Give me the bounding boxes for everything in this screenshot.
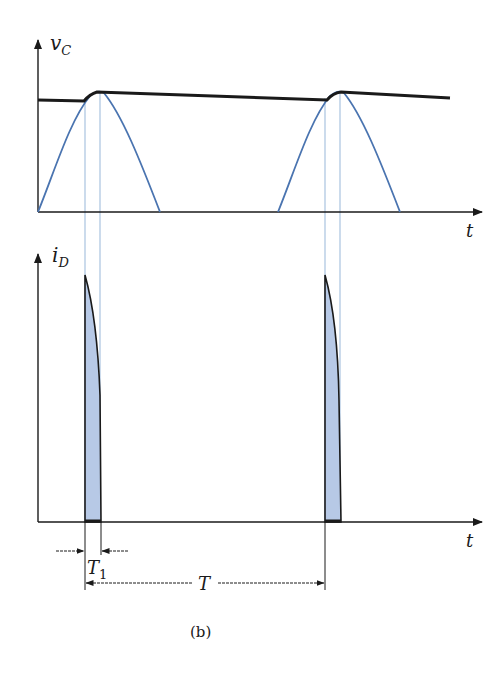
rectified-sine-2 (278, 92, 400, 212)
rectified-sine-1 (38, 92, 160, 212)
id-label: iD (52, 243, 69, 270)
t1-label: T1 (87, 557, 107, 582)
bottom-plot-id: iD t (38, 243, 482, 551)
diode-pulse-2 (325, 275, 341, 522)
conduction-guide-lines (85, 92, 340, 522)
dimension-annotations: T1 T (56, 522, 325, 594)
vc-t-label: t (466, 220, 474, 241)
period-label: T (198, 573, 212, 594)
top-plot-vc: vC t (38, 31, 482, 241)
figure-caption: (b) (190, 623, 211, 641)
vc-label: vC (50, 31, 71, 58)
rectifier-waveform-diagram: vC t iD t T1 T (b) (0, 0, 502, 680)
id-t-label: t (466, 530, 474, 551)
diode-pulse-1 (85, 275, 101, 522)
